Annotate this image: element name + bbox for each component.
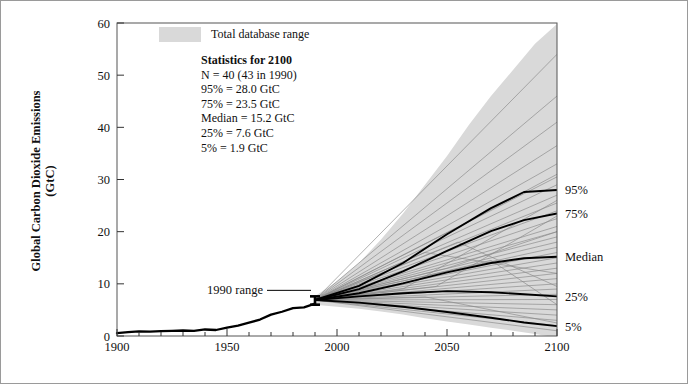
- chart-svg: 19001950200020502100010203040506095%75%M…: [1, 1, 688, 384]
- plot-area: 19001950200020502100010203040506095%75%M…: [1, 1, 688, 384]
- statistics-line-p25: 25% = 7.6 GtC: [201, 126, 297, 141]
- statistics-line-n: N = 40 (43 in 1990): [201, 68, 297, 83]
- y-tick-label-10: 10: [98, 277, 111, 291]
- historical-line: [117, 304, 315, 333]
- x-tick-label-2000: 2000: [325, 340, 350, 354]
- figure-container: Global Carbon Dioxide Emissions (GtC) 19…: [0, 0, 688, 384]
- label-median: Median: [565, 250, 604, 264]
- statistics-line-median: Median = 15.2 GtC: [201, 111, 297, 126]
- y-tick-label-40: 40: [98, 121, 111, 135]
- y-tick-label-0: 0: [104, 330, 110, 344]
- y-tick-label-60: 60: [98, 17, 111, 31]
- label-5: 5%: [565, 320, 582, 334]
- x-tick-label-2050: 2050: [435, 340, 460, 354]
- label-95: 95%: [565, 183, 588, 197]
- y-tick-label-20: 20: [98, 225, 111, 239]
- label-25: 25%: [565, 290, 588, 304]
- statistics-heading: Statistics for 2100: [201, 53, 297, 68]
- range-1990-label: 1990 range: [207, 283, 263, 297]
- statistics-line-p95: 95% = 28.0 GtC: [201, 82, 297, 97]
- statistics-line-p75: 75% = 23.5 GtC: [201, 97, 297, 112]
- label-75: 75%: [565, 207, 588, 221]
- statistics-box: Statistics for 2100 N = 40 (43 in 1990) …: [201, 53, 297, 155]
- x-tick-label-2100: 2100: [545, 340, 570, 354]
- legend: Total database range: [159, 27, 309, 42]
- y-tick-label-30: 30: [98, 173, 111, 187]
- legend-label-range: Total database range: [211, 27, 309, 42]
- statistics-line-p5: 5% = 1.9 GtC: [201, 141, 297, 156]
- legend-swatch-range: [159, 27, 201, 42]
- y-tick-label-50: 50: [98, 69, 111, 83]
- x-tick-label-1950: 1950: [215, 340, 240, 354]
